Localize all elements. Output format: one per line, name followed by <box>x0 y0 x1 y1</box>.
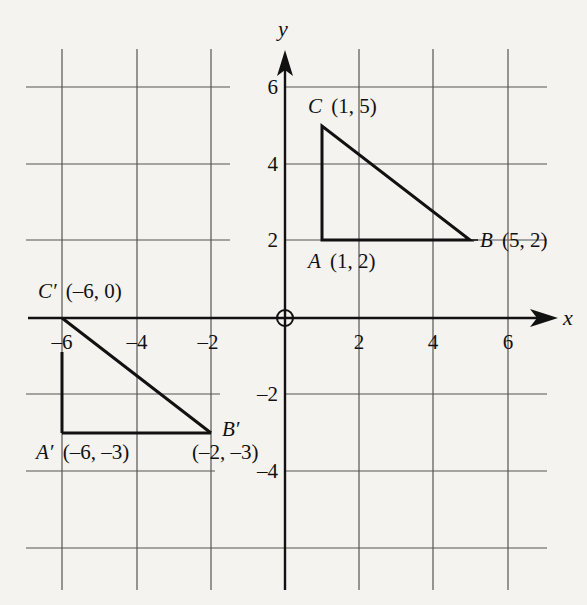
x-tick-label: –2 <box>197 330 219 354</box>
point-label-a: A (1, 2) <box>306 249 376 273</box>
x-tick-label: 4 <box>428 330 439 354</box>
y-tick-label: 4 <box>268 152 279 176</box>
x-axis-label: x <box>562 305 573 330</box>
y-axis-label: y <box>276 16 288 41</box>
x-tick-label: 6 <box>503 330 514 354</box>
y-tick-label: 6 <box>268 75 279 99</box>
point-label-a-prime: A′ (–6, –3) <box>34 440 129 464</box>
x-tick-label: –4 <box>126 330 149 354</box>
y-tick-label: 2 <box>268 228 279 252</box>
x-tick-labels: –6 –4 –2 2 4 6 <box>51 330 514 354</box>
coordinate-plane-figure: x y –6 –4 –2 2 4 6 6 4 2 –2 –4 C (1, 5) … <box>0 0 587 605</box>
y-tick-label: –4 <box>256 459 279 483</box>
triangle-abc <box>322 126 470 240</box>
point-label-c: C (1, 5) <box>308 94 377 118</box>
point-label-b-prime-coords: (–2, –3) <box>192 440 259 464</box>
point-label-b-prime: B′ <box>222 417 240 441</box>
y-tick-label: –2 <box>256 382 278 406</box>
point-label-b: B (5, 2) <box>480 228 548 252</box>
y-axis <box>277 50 293 590</box>
x-tick-label: 2 <box>354 330 365 354</box>
y-tick-labels: 6 4 2 –2 –4 <box>256 75 279 483</box>
point-label-c-prime: C′ (–6, 0) <box>38 279 122 303</box>
x-tick-label: –6 <box>51 330 73 354</box>
coordinate-plane: x y –6 –4 –2 2 4 6 6 4 2 –2 –4 C (1, 5) … <box>0 0 587 605</box>
